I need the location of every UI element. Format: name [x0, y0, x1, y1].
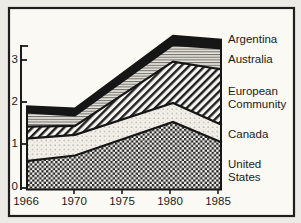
x-tick-label-1970: 1970: [61, 195, 87, 207]
scanned-figure-page: 3 2 1 0 1966 1970 1975 1980 1985 Argenti…: [0, 0, 301, 223]
x-tick-label-1966: 1966: [13, 195, 39, 207]
y-tick-label-0: 0: [12, 180, 18, 192]
stacked-area-chart: 3 2 1 0 1966 1970 1975 1980 1985 Argenti…: [0, 0, 301, 223]
x-tick-label-1975: 1975: [109, 195, 135, 207]
legend-label-united: United: [228, 158, 261, 170]
legend-label-canada: Canada: [228, 128, 269, 140]
legend-label-australia: Australia: [228, 53, 273, 65]
legend-label-community: Community: [228, 98, 286, 110]
y-tick-label-3: 3: [12, 53, 18, 65]
legend-label-argentina: Argentina: [228, 33, 278, 45]
y-tick-label-2: 2: [12, 95, 18, 107]
legend-label-european: European: [228, 85, 278, 97]
x-tick-label-1985: 1985: [205, 195, 231, 207]
legend-label-states: States: [228, 171, 261, 183]
y-tick-label-1: 1: [12, 137, 18, 149]
x-tick-label-1980: 1980: [157, 195, 183, 207]
